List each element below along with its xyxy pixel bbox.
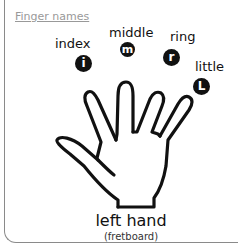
hand-label: left hand bbox=[12, 211, 238, 230]
left-hand-icon bbox=[0, 0, 238, 246]
hand-sublabel: (fretboard) bbox=[12, 231, 238, 242]
